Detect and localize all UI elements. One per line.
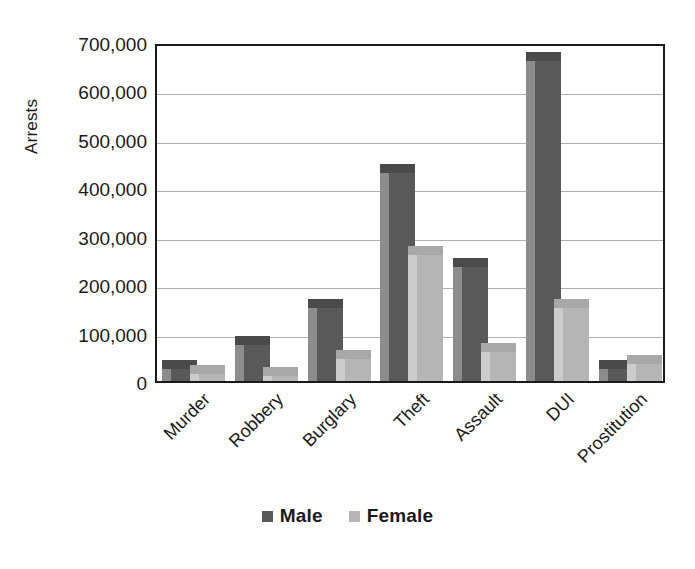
bar-group bbox=[157, 46, 230, 381]
x-axis-tick-label: Burglary bbox=[298, 389, 360, 451]
bar-front-face bbox=[417, 255, 443, 381]
bar-side-face bbox=[162, 369, 171, 381]
bar-side-face bbox=[627, 364, 636, 381]
bar-side-face bbox=[408, 255, 417, 381]
y-axis-tick-label: 400,000 bbox=[78, 180, 147, 199]
legend-item-female[interactable]: Female bbox=[349, 505, 434, 527]
x-axis-tick-label: Murder bbox=[160, 389, 214, 443]
bar-side-face bbox=[308, 308, 317, 381]
y-axis-tick-label: 200,000 bbox=[78, 277, 147, 296]
bar-front-face bbox=[563, 308, 589, 381]
bar-top-face bbox=[453, 258, 488, 267]
bar-top-face bbox=[380, 164, 415, 173]
bar-top-face bbox=[627, 355, 662, 364]
bar-side-face bbox=[526, 61, 535, 381]
bar-side-face bbox=[554, 308, 563, 381]
bar-female-theft bbox=[417, 255, 443, 381]
x-axis-tick-labels: MurderRobberyBurglaryTheftAssaultDUIPros… bbox=[155, 383, 665, 493]
bar-group bbox=[376, 46, 449, 381]
legend-swatch-male bbox=[262, 511, 273, 522]
bar-top-face bbox=[263, 367, 298, 376]
y-axis-tick-label: 300,000 bbox=[78, 228, 147, 247]
x-axis-tick-label: Robbery bbox=[225, 389, 287, 451]
y-axis-tick-label: 500,000 bbox=[78, 131, 147, 150]
bar-female-assault bbox=[490, 352, 516, 381]
bar-group bbox=[303, 46, 376, 381]
bar-chart: Arrests 0100,000200,000300,000400,000500… bbox=[0, 0, 695, 569]
bar-side-face bbox=[263, 376, 272, 381]
bar-front-face bbox=[490, 352, 516, 381]
bar-top-face bbox=[408, 246, 443, 255]
bar-group bbox=[521, 46, 594, 381]
y-axis-title: Arrests bbox=[22, 34, 46, 154]
bar-side-face bbox=[336, 359, 345, 381]
bar-group bbox=[230, 46, 303, 381]
bar-female-dui bbox=[563, 308, 589, 381]
x-axis-tick-label: Assault bbox=[450, 389, 506, 445]
bar-top-face bbox=[481, 343, 516, 352]
legend-label: Male bbox=[280, 505, 323, 527]
bar-female-prostitution bbox=[636, 364, 662, 381]
bar-side-face bbox=[190, 374, 199, 381]
bar-top-face bbox=[235, 336, 270, 345]
bar-female-burglary bbox=[345, 359, 371, 381]
bar-top-face bbox=[554, 299, 589, 308]
bar-group bbox=[594, 46, 667, 381]
bar-side-face bbox=[380, 173, 389, 381]
legend-item-male[interactable]: Male bbox=[262, 505, 323, 527]
bar-top-face bbox=[336, 350, 371, 359]
bar-side-face bbox=[481, 352, 490, 381]
x-axis-tick-label: DUI bbox=[543, 389, 579, 425]
y-axis-tick-label: 700,000 bbox=[78, 35, 147, 54]
bar-front-face bbox=[272, 376, 298, 381]
bar-side-face bbox=[453, 267, 462, 381]
bar-group bbox=[448, 46, 521, 381]
bar-top-face bbox=[308, 299, 343, 308]
y-axis-tick-label: 0 bbox=[136, 374, 147, 393]
x-axis-tick-label: Theft bbox=[390, 389, 433, 432]
bar-front-face bbox=[199, 374, 225, 381]
x-axis-tick-label: Prostitution bbox=[574, 389, 652, 467]
y-axis-tick-labels: 0100,000200,000300,000400,000500,000600,… bbox=[55, 44, 151, 383]
bar-front-face bbox=[636, 364, 662, 381]
legend-swatch-female bbox=[349, 511, 360, 522]
bar-front-face bbox=[345, 359, 371, 381]
y-axis-tick-label: 600,000 bbox=[78, 83, 147, 102]
bar-female-robbery bbox=[272, 376, 298, 381]
bar-top-face bbox=[526, 52, 561, 61]
plot-area bbox=[155, 44, 665, 383]
bar-side-face bbox=[599, 369, 608, 381]
y-axis-tick-label: 100,000 bbox=[78, 325, 147, 344]
legend-label: Female bbox=[367, 505, 434, 527]
bar-female-murder bbox=[199, 374, 225, 381]
bar-top-face bbox=[190, 365, 225, 374]
bar-side-face bbox=[235, 345, 244, 381]
bars-layer bbox=[157, 46, 663, 381]
chart-legend: MaleFemale bbox=[0, 505, 695, 527]
